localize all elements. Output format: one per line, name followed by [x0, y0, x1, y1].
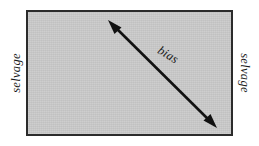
diagram-canvas: selvage selvage bias — [0, 0, 259, 146]
bias-arrow-group — [108, 20, 217, 128]
bias-arrow-shaft — [113, 25, 212, 123]
selvage-label-left: selvage — [10, 53, 23, 93]
selvage-label-right: selvage — [239, 53, 252, 93]
bias-arrow — [0, 0, 259, 146]
